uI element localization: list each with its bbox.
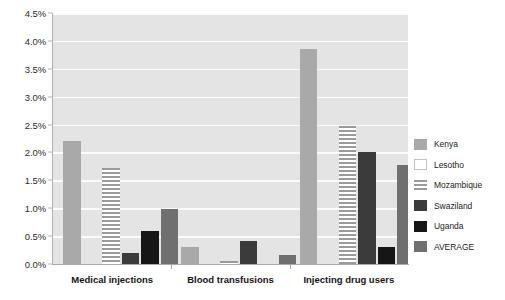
y-tick-label-3-0: 3.0% [0,91,46,102]
legend-item-kenya[interactable]: Kenya [414,134,504,155]
y-tick-label-1-5: 1.5% [0,175,46,186]
bar-blood-transfusions-kenya [181,247,199,264]
legend-item-average[interactable]: AVERAGE [414,237,504,258]
bar-blood-transfusions-average [279,255,297,264]
legend-swatch-uganda [414,221,427,232]
plot-area [53,13,408,264]
bar-injecting-drug-users-kenya [300,49,318,264]
legend-label-uganda: Uganda [434,221,463,231]
bar-blood-transfusions-swaziland [240,241,258,264]
bar-medical-injections-kenya [63,141,81,264]
y-tick-label-4-5: 4.5% [0,8,46,19]
y-tick-label-0-5: 0.5% [0,231,46,242]
bars-layer [53,13,408,264]
bar-medical-injections-average [161,209,179,264]
grouped-bar-chart: 0.0%0.5%1.0%1.5%2.0%2.5%3.0%3.5%4.0%4.5%… [0,0,505,300]
legend-item-mozambique[interactable]: Mozambique [414,175,504,196]
legend-label-average: AVERAGE [434,242,474,252]
legend-swatch-mozambique [414,180,427,191]
y-axis: 0.0%0.5%1.0%1.5%2.0%2.5%3.0%3.5%4.0%4.5% [0,8,46,270]
bar-medical-injections-mozambique [102,168,120,264]
legend-label-lesotho: Lesotho [434,160,464,170]
y-tick-label-3-5: 3.5% [0,63,46,74]
y-tick-label-2-0: 2.0% [0,147,46,158]
x-axis-line [52,264,409,265]
legend-item-uganda[interactable]: Uganda [414,216,504,237]
x-group-separator-tick [171,264,172,269]
legend-item-lesotho[interactable]: Lesotho [414,155,504,176]
legend-swatch-kenya [414,139,427,150]
bar-medical-injections-uganda [141,231,159,264]
legend-swatch-lesotho [414,159,427,170]
bar-injecting-drug-users-average [397,165,408,264]
y-tick-label-2-5: 2.5% [0,119,46,130]
x-group-label-medical-injections: Medical injections [71,274,153,285]
y-tick-label-4-0: 4.0% [0,35,46,46]
x-group-label-injecting-drug-users: Injecting drug users [303,274,394,285]
y-tick-label-0-0: 0.0% [0,259,46,270]
bar-injecting-drug-users-swaziland [358,152,376,264]
bar-injecting-drug-users-mozambique [339,126,357,264]
y-tick-label-1-0: 1.0% [0,203,46,214]
x-group-label-blood-transfusions: Blood transfusions [187,274,274,285]
legend: KenyaLesothoMozambiqueSwazilandUgandaAVE… [414,134,504,257]
legend-swatch-average [414,241,427,252]
bar-medical-injections-swaziland [122,253,140,264]
legend-item-swaziland[interactable]: Swaziland [414,196,504,217]
legend-label-kenya: Kenya [434,139,458,149]
legend-label-swaziland: Swaziland [434,201,472,211]
legend-swatch-swaziland [414,200,427,211]
legend-label-mozambique: Mozambique [434,180,482,190]
bar-injecting-drug-users-uganda [378,247,396,264]
x-group-separator-tick [290,264,291,269]
